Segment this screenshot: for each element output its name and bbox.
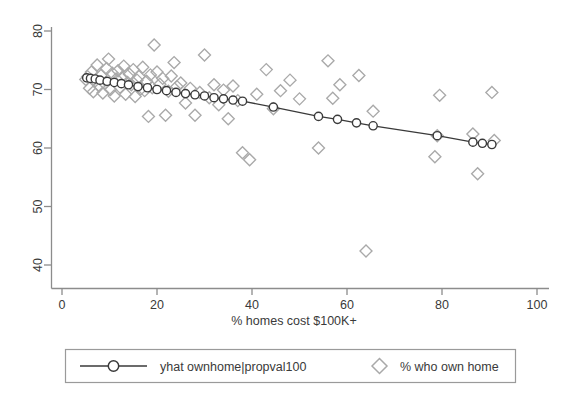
y-tick-label: 80 <box>31 24 45 38</box>
legend-label-fit: yhat ownhome|propval100 <box>160 360 306 374</box>
x-tick-label: 40 <box>245 298 259 312</box>
fit-point-marker <box>200 92 208 100</box>
fit-point-marker <box>469 138 477 146</box>
y-tick-label: 50 <box>31 200 45 214</box>
x-tick-label: 0 <box>59 298 66 312</box>
fit-point-marker <box>134 82 142 90</box>
fit-point-marker <box>269 103 277 111</box>
x-tick-label: 60 <box>340 298 354 312</box>
figure-background <box>0 0 581 394</box>
fit-point-marker <box>229 96 237 104</box>
legend-label-scatter: % who own home <box>400 360 499 374</box>
fit-point-marker <box>181 90 189 98</box>
y-tick-label: 60 <box>31 141 45 155</box>
fit-point-marker <box>352 119 360 127</box>
circle-marker-icon <box>108 361 118 371</box>
fit-point-marker <box>488 140 496 148</box>
fit-point-marker <box>172 88 180 96</box>
fit-point-marker <box>191 91 199 99</box>
legend-entry-fit[interactable]: yhat ownhome|propval100 <box>80 360 306 374</box>
y-tick-label: 40 <box>31 258 45 272</box>
fit-point-marker <box>162 87 170 95</box>
scatter-plot-figure: 4050607080 020406080100 % homes cost $10… <box>0 0 581 394</box>
x-tick-label: 100 <box>527 298 548 312</box>
x-tick-label: 20 <box>150 298 164 312</box>
fit-point-marker <box>143 84 151 92</box>
fit-point-marker <box>478 139 486 147</box>
fit-point-marker <box>219 95 227 103</box>
x-tick-label: 80 <box>435 298 449 312</box>
fit-point-marker <box>210 94 218 102</box>
fit-point-marker <box>124 81 132 89</box>
x-axis-title: % homes cost $100K+ <box>231 314 356 328</box>
fit-point-marker <box>238 97 246 105</box>
fit-point-marker <box>369 122 377 130</box>
fit-point-marker <box>153 85 161 93</box>
y-tick-label: 70 <box>31 83 45 97</box>
fit-point-marker <box>333 115 341 123</box>
fit-point-marker <box>314 112 322 120</box>
fit-point-marker <box>433 132 441 140</box>
legend: yhat ownhome|propval100 % who own home <box>66 350 516 383</box>
